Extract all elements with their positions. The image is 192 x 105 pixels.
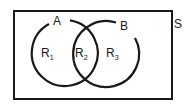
universe-label: S [174,18,182,30]
region-r1-label: R1 [41,44,54,60]
region-r3-index: 3 [115,54,119,61]
region-r3-label: R3 [106,44,119,60]
set-a-label: A [53,15,61,27]
set-b-label: B [120,20,128,32]
region-r2-index: 2 [84,54,88,61]
region-r1-letter: R [41,46,50,60]
region-r3-letter: R [106,46,115,60]
region-r2-label: R2 [75,44,88,60]
region-r1-index: 1 [50,54,54,61]
venn-diagram [0,0,192,105]
region-r2-letter: R [75,46,84,60]
